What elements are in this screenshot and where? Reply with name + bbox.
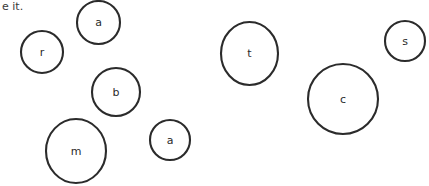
- bubble-t-2[interactable]: t: [221, 22, 278, 85]
- bubble-diagram-canvas: e it. artsbcam: [0, 0, 429, 186]
- bubble-label: a: [95, 16, 102, 29]
- bubble-layer: artsbcam: [21, 1, 425, 183]
- bubble-diagram-svg: e it. artsbcam: [0, 0, 429, 186]
- bubble-label: r: [40, 46, 45, 59]
- bubble-c-5[interactable]: c: [308, 64, 378, 134]
- bubble-label: s: [402, 35, 408, 48]
- bubble-label: a: [167, 134, 174, 147]
- bubble-a-0[interactable]: a: [77, 1, 120, 44]
- bubble-m-7[interactable]: m: [46, 119, 106, 183]
- bubble-r-1[interactable]: r: [21, 31, 63, 73]
- clipped-text-fragment: e it.: [2, 0, 23, 13]
- bubble-label: b: [113, 86, 120, 99]
- bubble-b-4[interactable]: b: [92, 68, 140, 116]
- bubble-label: m: [71, 145, 82, 158]
- bubble-label: c: [340, 93, 346, 106]
- bubble-a-6[interactable]: a: [150, 120, 190, 160]
- bubble-label: t: [247, 47, 252, 60]
- bubble-s-3[interactable]: s: [385, 21, 425, 61]
